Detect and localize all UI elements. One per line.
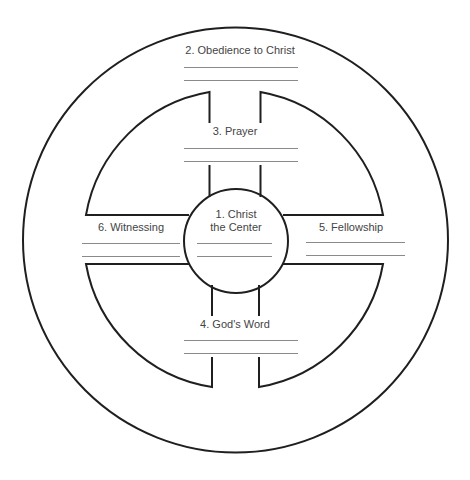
label-gods-word: 4. God's Word bbox=[190, 318, 280, 331]
label-christ-center-line1: 1. Christ bbox=[196, 208, 276, 221]
blank-lines-witnessing bbox=[82, 244, 180, 257]
blank-lines-prayer bbox=[184, 149, 298, 162]
quadrant-top-left bbox=[86, 92, 210, 215]
outer-rim-circle bbox=[23, 28, 448, 453]
label-prayer: 3. Prayer bbox=[200, 125, 270, 138]
label-christ-center-line2: the Center bbox=[196, 221, 276, 234]
label-witnessing: 6. Witnessing bbox=[90, 221, 172, 234]
blank-lines-fellowship bbox=[306, 243, 405, 256]
quadrant-top-right bbox=[261, 92, 384, 215]
label-fellowship: 5. Fellowship bbox=[310, 221, 392, 234]
label-obedience-to-christ: 2. Obedience to Christ bbox=[170, 44, 310, 57]
blank-lines-obedience bbox=[184, 68, 298, 81]
wheel-diagram bbox=[0, 0, 470, 480]
blank-lines-christ-center bbox=[197, 244, 272, 257]
center-hub-circle bbox=[184, 189, 288, 293]
blank-lines-gods-word bbox=[184, 341, 298, 354]
